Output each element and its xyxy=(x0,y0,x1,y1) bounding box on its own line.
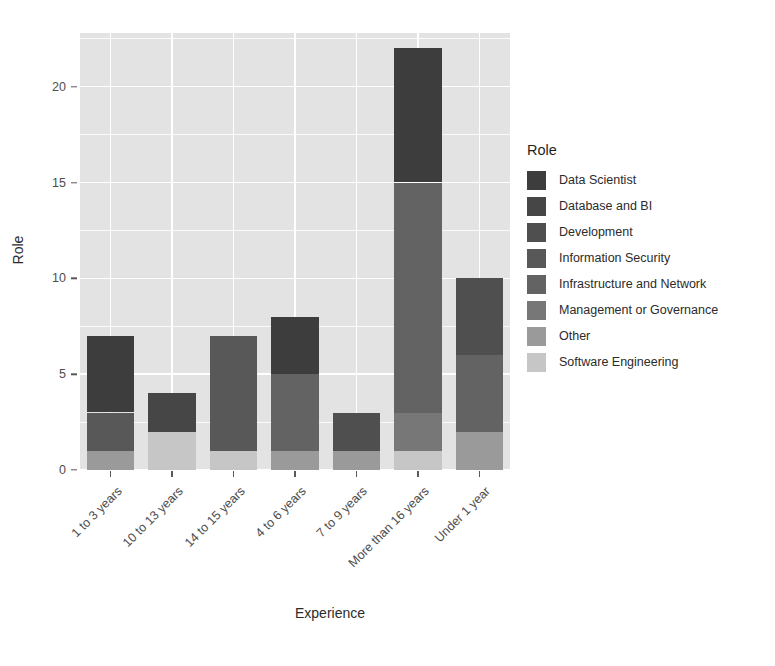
x-axis-tick-mark xyxy=(479,471,480,477)
x-axis-tick-mark xyxy=(110,471,111,477)
bar-segment[interactable] xyxy=(394,183,441,413)
y-axis-tick-label: 15 xyxy=(52,176,66,190)
legend-item-label: Data Scientist xyxy=(559,173,636,187)
bar-stack[interactable] xyxy=(271,33,318,470)
legend-item[interactable]: Infrastructure and Network xyxy=(527,271,767,297)
legend-item-label: Software Engineering xyxy=(559,355,679,369)
x-axis-tick-mark xyxy=(417,471,418,477)
bar-segment[interactable] xyxy=(271,374,318,451)
legend-swatch xyxy=(527,249,546,268)
y-axis-tick-mark xyxy=(71,86,77,87)
legend-swatch xyxy=(527,171,546,190)
bar-segment[interactable] xyxy=(87,413,134,451)
legend-item[interactable]: Data Scientist xyxy=(527,167,767,193)
y-axis-tick-mark xyxy=(71,469,77,470)
x-axis-tick-mark xyxy=(171,471,172,477)
legend-item[interactable]: Management or Governance xyxy=(527,297,767,323)
x-axis-tick-label: 10 to 13 years xyxy=(120,484,186,550)
bar-segment[interactable] xyxy=(271,451,318,470)
bar-segment[interactable] xyxy=(456,355,503,432)
x-axis-tick-label: 1 to 3 years xyxy=(69,484,125,540)
legend-swatch xyxy=(527,197,546,216)
legend-item[interactable]: Database and BI xyxy=(527,193,767,219)
legend-item-label: Other xyxy=(559,329,590,343)
legend-title: Role xyxy=(527,142,767,158)
chart-figure: 05101520 Role Experience Role Data Scien… xyxy=(0,0,775,666)
legend-swatch xyxy=(527,275,546,294)
x-axis-title: Experience xyxy=(295,605,365,621)
bar-segment[interactable] xyxy=(210,336,257,451)
x-axis-tick-mark xyxy=(233,471,234,477)
bar-stack[interactable] xyxy=(87,33,134,470)
y-axis-tick-label: 20 xyxy=(52,80,66,94)
legend-item[interactable]: Development xyxy=(527,219,767,245)
bar-stack[interactable] xyxy=(210,33,257,470)
x-axis-tick-label: Under 1 year xyxy=(432,484,493,545)
bar-stack[interactable] xyxy=(456,33,503,470)
legend-item[interactable]: Other xyxy=(527,323,767,349)
x-axis-tick-mark xyxy=(294,471,295,477)
x-axis-tick-label: 14 to 15 years xyxy=(182,484,248,550)
bar-stack[interactable] xyxy=(148,33,195,470)
x-axis-tick-mark xyxy=(356,471,357,477)
x-axis-tick-label: 7 to 9 years xyxy=(314,484,370,540)
legend-swatch xyxy=(527,301,546,320)
legend-swatch xyxy=(527,327,546,346)
bar-segment[interactable] xyxy=(456,432,503,470)
y-axis-tick-label: 0 xyxy=(59,463,66,477)
bar-segment[interactable] xyxy=(394,413,441,451)
y-axis-tick-mark xyxy=(71,278,77,279)
y-axis-tick-label: 10 xyxy=(52,271,66,285)
legend-item[interactable]: Information Security xyxy=(527,245,767,271)
legend-swatch xyxy=(527,223,546,242)
bar-segment[interactable] xyxy=(394,48,441,182)
bar-segment[interactable] xyxy=(210,451,257,470)
legend-swatch xyxy=(527,353,546,372)
bar-segment[interactable] xyxy=(148,393,195,431)
y-axis-title: Role xyxy=(10,236,26,265)
bar-stack[interactable] xyxy=(394,33,441,470)
legend: Role Data ScientistDatabase and BIDevelo… xyxy=(527,142,767,375)
legend-items: Data ScientistDatabase and BIDevelopment… xyxy=(527,167,767,375)
legend-item-label: Management or Governance xyxy=(559,303,718,317)
y-axis-tick-mark xyxy=(71,182,77,183)
y-axis-tick-mark xyxy=(71,373,77,374)
bar-segment[interactable] xyxy=(271,317,318,375)
bar-segment[interactable] xyxy=(87,336,134,413)
bar-segment[interactable] xyxy=(333,413,380,451)
legend-item-label: Database and BI xyxy=(559,199,652,213)
legend-item-label: Information Security xyxy=(559,251,670,265)
legend-item-label: Infrastructure and Network xyxy=(559,277,706,291)
bar-segment[interactable] xyxy=(394,451,441,470)
plot-panel xyxy=(80,33,510,470)
legend-item-label: Development xyxy=(559,225,633,239)
bar-segment[interactable] xyxy=(148,432,195,470)
y-axis-tick-label: 5 xyxy=(59,367,66,381)
x-axis-tick-label: 4 to 6 years xyxy=(253,484,309,540)
bar-stack[interactable] xyxy=(333,33,380,470)
bar-segment[interactable] xyxy=(87,451,134,470)
bar-segment[interactable] xyxy=(333,451,380,470)
legend-item[interactable]: Software Engineering xyxy=(527,349,767,375)
bar-segment[interactable] xyxy=(456,278,503,355)
